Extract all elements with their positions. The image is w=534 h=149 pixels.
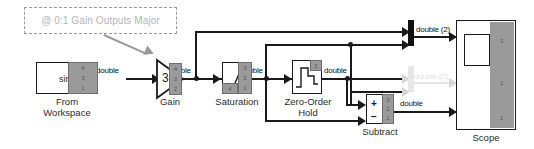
from-workspace-badge: 4 3 1 xyxy=(68,62,98,94)
sub-tick-2: 2 xyxy=(386,106,389,112)
label-from-workspace: From Workspace xyxy=(24,96,110,118)
wire-saturation-branch-to-mux xyxy=(265,44,408,46)
label-from-workspace-line2: Workspace xyxy=(24,107,110,118)
arrow-zoh-in xyxy=(284,74,292,84)
sat-corner-tick: 4 xyxy=(228,86,231,92)
wire-gain-branch-up xyxy=(195,31,197,79)
saturation-corner-badge: 4 xyxy=(222,83,238,94)
sat-tick-3: 1 xyxy=(243,85,246,91)
zoh-badge: 2 xyxy=(310,60,322,71)
label-saturation: Saturation xyxy=(203,96,271,107)
label-gain-text: Gain xyxy=(140,96,200,107)
wire-sat-branch-to-subtract xyxy=(350,44,352,106)
label-saturation-text: Saturation xyxy=(203,96,271,107)
signal-label-zoh-out: double xyxy=(324,66,347,75)
gain-tick-1: 4 xyxy=(174,66,177,72)
saturation-badge: 3 2 1 xyxy=(238,62,252,94)
label-zoh-line1: Zero-Order xyxy=(272,96,344,107)
wire-saturation-branch-up xyxy=(265,44,267,79)
gain-badge: 4 3 2 xyxy=(169,63,182,95)
label-scope: Scope xyxy=(456,132,516,143)
wire-zoh-to-subtract-v xyxy=(346,78,348,105)
sat-tick-2: 2 xyxy=(243,75,246,81)
wire-saturation-low-branch-h xyxy=(265,120,364,122)
arrow-saturation-in xyxy=(213,74,221,84)
annotation-text: @ 0:1 Gain Outputs Major xyxy=(41,15,160,26)
scope-tick-1: 3 xyxy=(500,38,503,44)
subtract-badge: 3 2 1 xyxy=(382,94,394,124)
annotation-callout-line xyxy=(104,34,147,54)
sat-tick-1: 3 xyxy=(243,65,246,71)
gain-tick-3: 2 xyxy=(174,86,177,92)
sub-tick-1: 3 xyxy=(386,97,389,103)
scope-inner-window xyxy=(464,34,490,66)
label-scope-text: Scope xyxy=(456,132,516,143)
sub-tick-3: 1 xyxy=(386,115,389,121)
fw-tick-1: 4 xyxy=(81,65,84,71)
label-from-workspace-line1: From xyxy=(24,96,110,107)
annotation-box[interactable]: @ 0:1 Gain Outputs Major xyxy=(24,7,177,34)
annotation-callout-arrow xyxy=(143,46,155,59)
arrow-subtract-plus-in xyxy=(358,100,366,110)
gain-tick-2: 3 xyxy=(174,76,177,82)
wire-faded-mux-in-2 xyxy=(350,91,408,93)
gain-value-text: 3 xyxy=(162,71,169,85)
signal-label-mux-out: double (2) xyxy=(416,25,450,34)
wire-subtract-to-scope xyxy=(394,111,456,113)
zoh-tick-1: 2 xyxy=(314,63,317,69)
signal-label-subtract-out: double xyxy=(400,99,423,108)
signal-label-mux-faded-out: double (2) xyxy=(414,72,448,81)
fw-tick-3: 1 xyxy=(81,85,84,91)
simulink-diagram-canvas: @ 0:1 Gain Outputs Major double double d… xyxy=(0,0,534,149)
wire-zoh-to-faded-mux xyxy=(346,78,408,80)
label-gain: Gain xyxy=(140,96,200,107)
mux-bar-faded[interactable] xyxy=(408,66,414,92)
wire-gain-branch-to-mux xyxy=(195,31,408,33)
label-zero-order-hold: Zero-Order Hold xyxy=(272,96,344,118)
fw-tick-2: 3 xyxy=(81,75,84,81)
scope-tick-3: 1 xyxy=(500,115,503,121)
arrow-subtract-minus-in xyxy=(358,116,366,126)
wire-fw-to-gain xyxy=(126,78,154,80)
label-zoh-line2: Hold xyxy=(272,107,344,118)
subtract-plus-sign: + xyxy=(371,99,377,109)
label-subtract: Subtract xyxy=(350,126,410,137)
signal-label-fw-to-gain: double xyxy=(96,66,119,75)
wire-zoh-out xyxy=(320,78,348,80)
subtract-minus-sign: − xyxy=(371,112,377,122)
mux-bar-top[interactable] xyxy=(408,20,414,46)
scope-tick-2: 2 xyxy=(500,80,503,86)
label-subtract-text: Subtract xyxy=(350,126,410,137)
